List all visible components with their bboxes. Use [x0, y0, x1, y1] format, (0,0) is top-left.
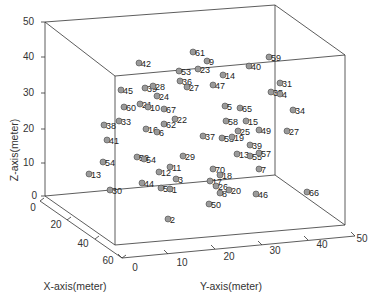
data-point: 41 [104, 136, 119, 146]
data-point: 42 [136, 59, 151, 69]
point-label: 41 [109, 136, 119, 146]
data-point: 66 [304, 188, 319, 198]
z-tick-labels: 50403020100 [23, 16, 38, 201]
point-label: 37 [205, 132, 215, 142]
data-point: 47 [210, 81, 225, 91]
point-label: 31 [282, 79, 292, 89]
point-label: 3 [178, 175, 183, 185]
point-label: 10 [150, 103, 160, 113]
point-label: 44 [144, 179, 154, 189]
z-tick-label: 50 [23, 16, 35, 27]
data-point: 54 [141, 155, 156, 165]
point-label: 11 [172, 163, 181, 173]
data-points: 6195942532340144736273135445392824346021… [86, 48, 319, 225]
axes-box [40, 5, 355, 258]
y-tick-labels: 01020304050 [132, 233, 368, 273]
data-point: 27 [284, 127, 299, 137]
data-point: 46 [253, 190, 268, 200]
point-label: 23 [200, 65, 210, 75]
data-point: 13 [234, 150, 249, 160]
point-label: 42 [141, 59, 151, 69]
data-point: 38 [101, 121, 116, 131]
data-point: 30 [107, 186, 122, 196]
point-label: 46 [258, 190, 268, 200]
data-point: 54 [100, 158, 115, 168]
point-label: 7 [261, 165, 266, 175]
point-label: 33 [121, 117, 131, 127]
data-point: 40 [246, 62, 261, 72]
point-label: 50 [211, 200, 221, 210]
data-point: 20 [226, 186, 241, 196]
y-tick-label: 50 [356, 233, 368, 244]
point-label: 30 [112, 186, 122, 196]
point-label: 12 [161, 168, 171, 178]
point-label: 13 [91, 170, 101, 180]
y-tick-label: 0 [132, 262, 138, 273]
point-label: 27 [289, 127, 299, 137]
data-point: 14 [220, 71, 235, 81]
point-label: 45 [123, 86, 133, 96]
z-tick-label: 0 [31, 190, 37, 201]
point-label: 29 [185, 152, 195, 162]
z-tick-label: 30 [23, 87, 35, 98]
point-label: 58 [228, 117, 238, 127]
point-label: 22 [177, 115, 187, 125]
point-label: 27 [189, 83, 199, 93]
point-label: 4 [282, 90, 287, 100]
point-label: 66 [309, 188, 319, 198]
point-label: 54 [146, 155, 156, 165]
data-point: 39 [247, 141, 262, 151]
data-point: 15 [243, 117, 258, 127]
data-point: 2 [165, 215, 175, 225]
y-axis-label: Y-axis(meter) [200, 280, 262, 292]
z-tick-label: 20 [23, 123, 35, 134]
x-tick-label: 0 [30, 202, 36, 213]
z-tick-label: 40 [23, 51, 35, 62]
data-point: 65 [237, 104, 252, 114]
point-label: 19 [234, 133, 244, 143]
y-tick-label: 10 [176, 257, 188, 268]
point-label: 54 [105, 158, 115, 168]
point-label: 24 [159, 92, 169, 102]
data-point: 49 [256, 126, 271, 136]
point-label: 38 [106, 121, 116, 131]
data-point: 50 [206, 200, 221, 210]
y-tick-label: 20 [223, 251, 235, 262]
x-tick-label: 60 [102, 255, 114, 266]
scatter-3d-plot: 50403020100 0204060 01020304050 Z-axis(m… [0, 0, 381, 301]
point-label: 1 [172, 185, 177, 195]
x-axis-label: X-axis(meter) [43, 280, 106, 292]
x-tick-label: 20 [50, 219, 62, 230]
data-point: 59 [266, 53, 281, 63]
z-axis-label: Z-axis(meter) [8, 119, 20, 181]
data-point: 61 [190, 48, 205, 58]
data-point: 24 [154, 92, 169, 102]
data-point: 37 [200, 132, 215, 142]
point-label: 5 [227, 102, 232, 112]
data-point: 60 [121, 103, 136, 113]
data-point: 27 [184, 83, 199, 93]
data-point: 5 [222, 102, 232, 112]
data-point: 7 [256, 165, 266, 175]
z-axis-ticks [41, 22, 45, 196]
point-label: 47 [215, 81, 225, 91]
point-label: 53 [181, 67, 191, 77]
data-point: 13 [86, 170, 101, 180]
point-label: 65 [242, 104, 252, 114]
data-point: 3 [173, 175, 183, 185]
point-label: 57 [261, 149, 271, 159]
point-label: 49 [261, 126, 271, 136]
point-label: 67 [166, 105, 176, 115]
point-label: 18 [222, 171, 232, 181]
y-tick-label: 30 [269, 245, 281, 256]
x-tick-labels: 0204060 [30, 202, 114, 266]
point-label: 20 [231, 186, 241, 196]
data-point: 10 [145, 103, 160, 113]
point-label: 59 [271, 53, 281, 63]
data-point: 29 [180, 152, 195, 162]
point-label: 2 [170, 215, 175, 225]
data-point: 67 [161, 105, 176, 115]
point-label: 40 [251, 62, 261, 72]
point-label: 34 [295, 106, 305, 116]
point-label: 6 [159, 128, 164, 138]
